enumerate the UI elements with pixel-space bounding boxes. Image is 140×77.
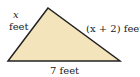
left-side-unit: feet xyxy=(9,21,29,32)
triangle xyxy=(8,8,120,61)
right-side-label: (x + 2) feet xyxy=(86,23,140,34)
bottom-side-label: 7 feet xyxy=(50,65,79,76)
left-side-variable: x xyxy=(13,9,19,20)
